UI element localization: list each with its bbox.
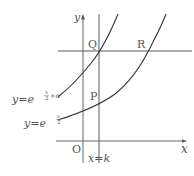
svg-text:y=e: y=e: [23, 117, 46, 130]
svg-text:2: 2: [57, 119, 61, 125]
curve-upper-equation: y=e x 2 +α: [11, 89, 60, 106]
point-Q-label: Q: [88, 38, 97, 51]
x-equals-k-label: x=k: [88, 152, 110, 165]
point-R-label: R: [137, 38, 146, 51]
svg-text:y=e: y=e: [11, 93, 34, 106]
svg-text:2: 2: [45, 95, 49, 101]
curve-lower-equation: y=e x 2: [23, 113, 61, 130]
curve-upper: [58, 14, 118, 97]
origin-label: O: [72, 143, 81, 156]
curve-lower: [58, 14, 166, 120]
point-P-label: P: [90, 90, 98, 103]
y-axis-label: y: [73, 11, 81, 24]
exponential-curves-diagram: y x O Q R P x=k y=e x 2 +α y=e x 2: [0, 0, 194, 176]
x-axis-label: x: [181, 142, 188, 156]
svg-text:+α: +α: [50, 92, 60, 100]
